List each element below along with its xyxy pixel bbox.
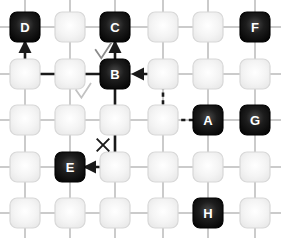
node-box bbox=[148, 105, 178, 135]
node-label: B bbox=[110, 67, 119, 82]
node-label: C bbox=[110, 20, 120, 35]
grid-node-b[interactable]: B bbox=[100, 59, 130, 89]
node-box bbox=[193, 152, 223, 182]
checkmark-icon bbox=[95, 43, 111, 59]
node-box bbox=[193, 59, 223, 89]
node-box bbox=[55, 59, 85, 89]
node-box bbox=[193, 12, 223, 42]
grid-node-d[interactable]: D bbox=[10, 12, 40, 42]
node-box bbox=[100, 152, 130, 182]
node-box bbox=[55, 198, 85, 228]
grid-node-h[interactable]: H bbox=[193, 198, 223, 228]
node-box bbox=[55, 12, 85, 42]
grid-node-empty[interactable] bbox=[193, 12, 223, 42]
grid-node-empty[interactable] bbox=[10, 59, 40, 89]
grid-node-empty[interactable] bbox=[148, 59, 178, 89]
node-box bbox=[240, 152, 270, 182]
node-label: F bbox=[251, 20, 259, 35]
grid-node-empty[interactable] bbox=[148, 12, 178, 42]
grid-node-empty[interactable] bbox=[100, 105, 130, 135]
node-box bbox=[148, 198, 178, 228]
grid-node-empty[interactable] bbox=[240, 59, 270, 89]
node-box bbox=[10, 152, 40, 182]
node-box bbox=[148, 12, 178, 42]
node-label: A bbox=[203, 113, 213, 128]
grid-network-svg: DCFBAGEH bbox=[0, 0, 281, 238]
grid-node-empty[interactable] bbox=[240, 198, 270, 228]
grid-node-f[interactable]: F bbox=[240, 12, 270, 42]
node-box bbox=[240, 198, 270, 228]
grid-node-empty[interactable] bbox=[148, 198, 178, 228]
grid-node-empty[interactable] bbox=[55, 59, 85, 89]
grid-node-empty[interactable] bbox=[55, 198, 85, 228]
node-label: E bbox=[66, 160, 75, 175]
node-box bbox=[148, 152, 178, 182]
grid-node-empty[interactable] bbox=[10, 198, 40, 228]
node-label: G bbox=[250, 113, 260, 128]
node-box bbox=[10, 105, 40, 135]
grid-node-g[interactable]: G bbox=[240, 105, 270, 135]
node-box bbox=[240, 59, 270, 89]
node-label: H bbox=[203, 206, 212, 221]
grid-node-empty[interactable] bbox=[10, 105, 40, 135]
node-box bbox=[55, 105, 85, 135]
grid-node-empty[interactable] bbox=[148, 105, 178, 135]
grid-node-empty[interactable] bbox=[55, 105, 85, 135]
grid-node-empty[interactable] bbox=[100, 198, 130, 228]
diagram-canvas: DCFBAGEH bbox=[0, 0, 281, 238]
grid-node-e[interactable]: E bbox=[55, 152, 85, 182]
node-box bbox=[148, 59, 178, 89]
grid-node-c[interactable]: C bbox=[100, 12, 130, 42]
grid-edges bbox=[0, 0, 281, 238]
node-box bbox=[100, 105, 130, 135]
grid-node-empty[interactable] bbox=[240, 152, 270, 182]
grid-node-empty[interactable] bbox=[193, 152, 223, 182]
cross-icon bbox=[97, 139, 110, 152]
grid-node-empty[interactable] bbox=[100, 152, 130, 182]
node-label: D bbox=[20, 20, 29, 35]
grid-node-empty[interactable] bbox=[55, 12, 85, 42]
grid-node-empty[interactable] bbox=[10, 152, 40, 182]
grid-node-empty[interactable] bbox=[148, 152, 178, 182]
node-box bbox=[10, 59, 40, 89]
node-box bbox=[100, 198, 130, 228]
grid-node-a[interactable]: A bbox=[193, 105, 223, 135]
grid-node-empty[interactable] bbox=[193, 59, 223, 89]
node-box bbox=[10, 198, 40, 228]
